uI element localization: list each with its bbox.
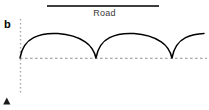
cycloid-figure: Road b [0,0,209,110]
bottom-left-triangle-marker [3,98,10,105]
cycloid-curve [20,33,204,58]
panel-label-b: b [4,18,11,30]
road-label: Road [0,8,209,18]
